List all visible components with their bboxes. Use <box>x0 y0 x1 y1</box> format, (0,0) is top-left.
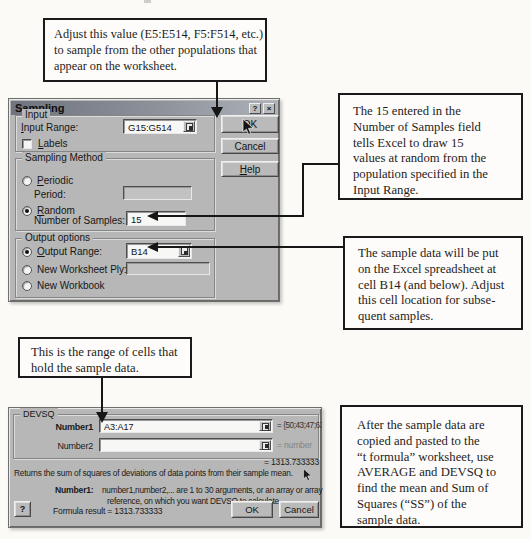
callout-line: values at random from the <box>353 151 521 167</box>
devsq-description: Returns the sum of squares of deviations… <box>14 468 310 478</box>
random-radio[interactable] <box>22 206 32 216</box>
callout-line: Input Range. <box>353 183 521 199</box>
titlebar-help-icon[interactable]: ? <box>249 103 261 114</box>
input-range-field[interactable]: G15:G514 <box>123 119 197 134</box>
range-selector-icon[interactable] <box>259 421 271 431</box>
periodic-label[interactable]: Periodic <box>37 175 73 187</box>
number1-field[interactable]: A3:A17 <box>99 419 273 433</box>
number2-label: Number2 <box>33 441 93 451</box>
arrow-down-icon <box>96 412 108 423</box>
help-question-button[interactable]: ? <box>14 501 31 517</box>
leader-line <box>157 215 304 217</box>
callout-line: appear on the worksheet. <box>54 59 265 75</box>
period-label: Period: <box>34 189 66 201</box>
callout-devsq-usage: After the sample data are copied and pas… <box>340 405 523 528</box>
help-text-line1: number1,number2,... are 1 to 30 argument… <box>102 485 322 495</box>
output-range-value: B14 <box>131 246 148 257</box>
number2-result: = number <box>277 440 312 450</box>
range-selector-icon[interactable] <box>259 440 271 450</box>
titlebar-close-icon[interactable]: × <box>263 103 275 114</box>
devsq-ok-button[interactable]: OK <box>231 501 273 518</box>
leader-line <box>216 82 218 108</box>
scan-artifact <box>144 0 151 3</box>
period-field[interactable] <box>123 186 192 200</box>
arrow-left-icon <box>147 242 158 252</box>
labels-label[interactable]: Labels <box>38 138 67 150</box>
new-worksheet-ply-radio[interactable] <box>22 265 32 275</box>
input-range-value: G15:G514 <box>128 122 172 133</box>
callout-line: Number of Samples field <box>353 120 521 136</box>
new-worksheet-ply-label[interactable]: New Worksheet Ply: <box>37 264 127 276</box>
number1-value: A3:A17 <box>104 422 134 432</box>
devsq-cancel-button[interactable]: Cancel <box>279 501 319 518</box>
callout-number-of-samples: The 15 entered in the Number of Samples … <box>338 93 523 200</box>
callout-line: The 15 entered in the <box>353 104 521 120</box>
callout-line: to sample from the other populations tha… <box>54 43 265 59</box>
new-workbook-radio[interactable] <box>22 281 32 291</box>
leader-line <box>157 246 344 248</box>
formula-result: Formula result = 1313.733333 <box>53 506 162 516</box>
callout-line: quent samples. <box>358 309 521 325</box>
callout-line: tells Excel to draw 15 <box>353 136 521 152</box>
callout-line: Adjust this value (E5:E514, F5:F514, etc… <box>54 27 265 43</box>
callout-line: population specified in the <box>353 167 521 183</box>
mouse-cursor-icon <box>302 468 312 486</box>
arrow-left-icon <box>147 211 158 221</box>
callout-line: “t formula” worksheet, use <box>357 450 521 466</box>
periodic-radio[interactable] <box>22 176 32 186</box>
new-workbook-label[interactable]: New Workbook <box>37 280 105 292</box>
callout-output-location: The sample data will be put on the Excel… <box>343 236 523 330</box>
number1-label: Number1 <box>33 422 93 432</box>
callout-line: After the sample data are <box>357 418 521 434</box>
callout-line: The sample data will be put <box>358 246 521 262</box>
number2-field[interactable] <box>99 438 273 452</box>
leader-line <box>302 163 339 165</box>
callout-adjust-value: Adjust this value (E5:E514, F5:F514, etc… <box>43 18 267 82</box>
output-range-radio[interactable] <box>22 247 32 257</box>
callout-sample-range: This is the range of cells that hold the… <box>18 337 192 378</box>
cancel-button[interactable]: Cancel <box>221 138 279 154</box>
input-group-label: Input <box>22 109 50 121</box>
callout-line: hold the sample data. <box>31 361 190 377</box>
callout-line: sample data. <box>357 513 521 529</box>
callout-line: This is the range of cells that <box>31 345 190 361</box>
devsq-group-label: DEVSQ <box>20 408 58 420</box>
mouse-cursor-icon <box>241 118 254 140</box>
range-selector-icon[interactable] <box>183 121 195 132</box>
page: Adjust this value (E5:E514, F5:F514, etc… <box>0 0 531 539</box>
formula-intermediate-result: = 1313.733333 <box>201 457 319 467</box>
number-of-samples-value: 15 <box>131 214 142 225</box>
leader-line <box>302 163 304 217</box>
callout-line: cell B14 (and below). Adjust <box>358 278 521 294</box>
callout-line: Squares (“SS”) of the <box>357 497 521 513</box>
help-term: Number1: <box>55 485 94 495</box>
arrow-down-icon <box>211 107 223 118</box>
output-range-label[interactable]: Output Range: <box>37 246 102 258</box>
devsq-dialog: DEVSQ Number1 A3:A17 = {50;43;47;63;61;3… <box>8 407 322 528</box>
sampling-titlebar[interactable]: Sampling ? × <box>11 101 277 115</box>
sampling-method-group-label: Sampling Method <box>22 152 106 164</box>
callout-line: on the Excel spreadsheet at <box>358 262 521 278</box>
input-range-label: Input Range: <box>21 122 78 134</box>
number1-result: = {50;43;47;63;61;37 <box>277 421 322 431</box>
callout-line: find the mean and Sum of <box>357 481 521 497</box>
labels-checkbox[interactable] <box>22 139 32 149</box>
callout-line: copied and pasted to the <box>357 434 521 450</box>
callout-line: this cell location for subse- <box>358 293 521 309</box>
number-of-samples-label: Number of Samples: <box>34 215 125 227</box>
help-button[interactable]: Help <box>221 161 279 177</box>
output-options-group-label: Output options <box>22 232 93 244</box>
new-worksheet-ply-field[interactable] <box>126 262 210 275</box>
leader-line <box>101 378 103 413</box>
callout-line: AVERAGE and DEVSQ to <box>357 465 521 481</box>
sampling-dialog: Sampling ? × Input Input Range: G15:G514… <box>8 98 280 302</box>
